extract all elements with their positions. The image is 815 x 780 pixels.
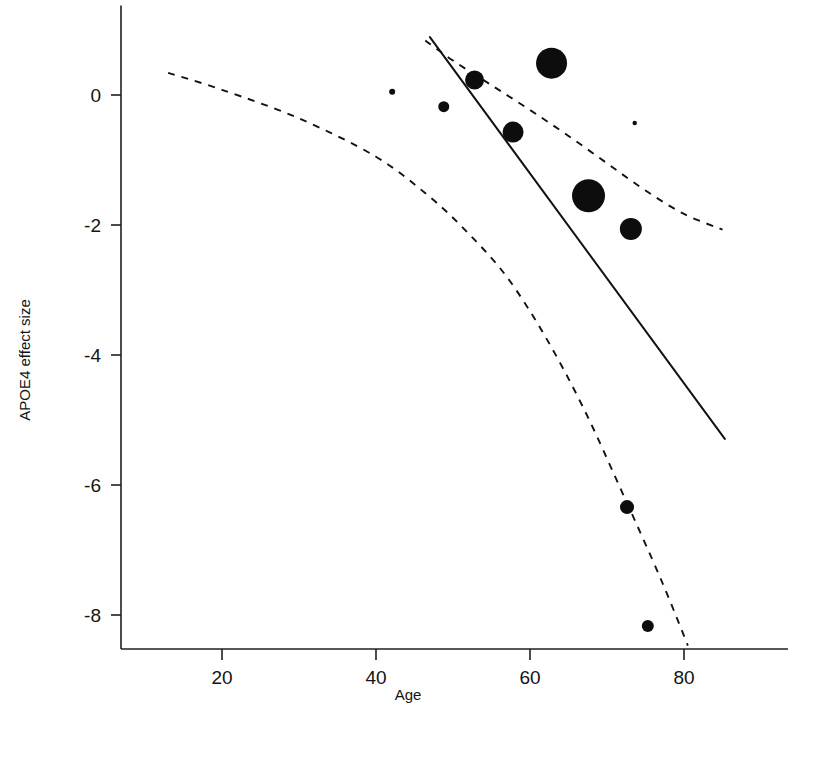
y-tick-label: -2 xyxy=(84,215,101,236)
x-tick-label: 80 xyxy=(673,667,694,688)
data-point-bubble xyxy=(536,48,567,79)
x-tick-label: 40 xyxy=(365,667,386,688)
confidence-band-group xyxy=(168,40,722,645)
data-point-bubble xyxy=(389,89,395,95)
data-point-bubble xyxy=(620,500,634,514)
data-point-bubble xyxy=(438,101,449,112)
x-tick-label: 20 xyxy=(211,667,232,688)
data-point-bubble xyxy=(642,620,654,632)
data-point-group xyxy=(389,48,654,632)
x-axis-title: Age xyxy=(395,686,422,703)
data-point-bubble xyxy=(572,179,605,212)
y-axis-ticks: 0-2-4-6-8 xyxy=(84,85,121,626)
y-tick-label: -8 xyxy=(84,605,101,626)
y-tick-label: -6 xyxy=(84,475,101,496)
figure-container: 0-2-4-6-8 20406080 Age APOE4 effect size xyxy=(0,0,815,780)
y-tick-label: -4 xyxy=(84,345,101,366)
x-tick-label: 60 xyxy=(519,667,540,688)
y-axis-title: APOE4 effect size xyxy=(16,299,33,420)
data-point-bubble xyxy=(503,122,524,143)
scatter-plot-canvas: 0-2-4-6-8 20406080 Age APOE4 effect size xyxy=(0,0,815,780)
data-point-bubble xyxy=(620,218,642,240)
data-point-bubble xyxy=(633,121,637,125)
confidence-band-line xyxy=(168,73,688,646)
y-tick-label: 0 xyxy=(90,85,101,106)
x-axis-ticks: 20406080 xyxy=(211,649,694,688)
regression-fit-line xyxy=(430,37,725,439)
data-point-bubble xyxy=(465,71,484,90)
